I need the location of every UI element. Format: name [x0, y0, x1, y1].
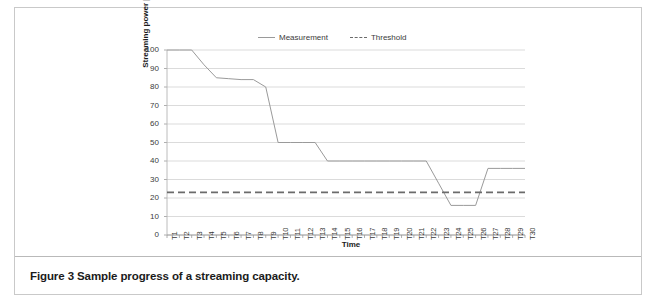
x-tick-label: T15 [343, 228, 352, 240]
x-tick-label: T23 [442, 228, 451, 240]
y-tick-label: 40 [137, 156, 159, 165]
x-tick-label: T16 [355, 228, 364, 240]
figure-frame: Measurement Threshold Streaming power [%… [14, 7, 642, 295]
x-tick-label: T13 [318, 228, 327, 240]
x-tick-label: T3 [195, 232, 204, 240]
x-tick-label: T29 [516, 228, 525, 240]
x-tick-label: T6 [232, 232, 241, 240]
y-tick-label: 20 [137, 193, 159, 202]
x-tick-label: T28 [503, 228, 512, 240]
x-tick-label: T12 [306, 228, 315, 240]
x-tick-label: T8 [256, 232, 265, 240]
chart-canvas [15, 8, 641, 256]
x-tick-label: T21 [417, 228, 426, 240]
x-tick-label: T14 [330, 228, 339, 240]
x-axis-title: Time [176, 240, 526, 249]
x-tick-label: T22 [429, 228, 438, 240]
x-tick-label: T24 [454, 228, 463, 240]
x-tick-label: T18 [380, 228, 389, 240]
plot-area: Streaming power [%] Time 100908070605040… [15, 8, 641, 256]
x-tick-label: T9 [269, 232, 278, 240]
x-tick-label: T7 [244, 232, 253, 240]
x-tick-label: T26 [479, 228, 488, 240]
chart-region: Measurement Threshold Streaming power [%… [15, 8, 641, 256]
x-tick-label: T4 [207, 232, 216, 240]
y-tick-label: 90 [137, 64, 159, 73]
series-line-measurement [167, 50, 525, 205]
x-tick-label: T20 [405, 228, 414, 240]
y-axis-title: Streaming power [%] [141, 0, 150, 88]
x-tick-label: T2 [182, 232, 191, 240]
y-tick-label: 30 [137, 175, 159, 184]
y-tick-label: 60 [137, 119, 159, 128]
x-tick-label: T17 [368, 228, 377, 240]
x-tick-label: T19 [392, 228, 401, 240]
y-tick-label: 100 [137, 45, 159, 54]
x-tick-label: T30 [528, 228, 537, 240]
figure-caption: Figure 3 Sample progress of a streaming … [30, 270, 300, 282]
y-tick-label: 10 [137, 212, 159, 221]
y-tick-label: 80 [137, 82, 159, 91]
y-tick-label: 50 [137, 138, 159, 147]
x-tick-label: T27 [491, 228, 500, 240]
x-tick-label: T5 [219, 232, 228, 240]
x-tick-label: T25 [466, 228, 475, 240]
x-tick-label: T1 [170, 232, 179, 240]
x-tick-label: T11 [293, 228, 302, 240]
y-tick-label: 70 [137, 101, 159, 110]
y-tick-label: 0 [137, 230, 159, 239]
caption-bar: Figure 3 Sample progress of a streaming … [15, 257, 641, 294]
x-tick-label: T10 [281, 228, 290, 240]
